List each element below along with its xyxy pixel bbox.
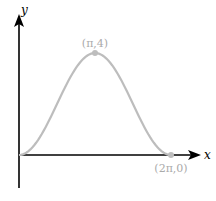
end-point bbox=[168, 152, 174, 158]
end-label: (2π,0) bbox=[154, 162, 187, 175]
peak-label: (π,4) bbox=[82, 37, 108, 50]
peak-point bbox=[92, 50, 98, 56]
graph: y x (π,4) (2π,0) bbox=[0, 0, 216, 201]
curve bbox=[19, 53, 171, 155]
x-axis-label: x bbox=[204, 148, 211, 162]
y-axis-label: y bbox=[20, 3, 28, 17]
